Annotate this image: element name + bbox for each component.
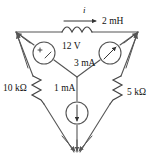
inductor-icon bbox=[62, 27, 92, 32]
circuit-diagram: i 2 mH 12 V 3 mA 10 kΩ 5 kΩ 1 mA bbox=[0, 0, 154, 161]
inductor-value-label: 2 mH bbox=[102, 17, 123, 27]
resistor-right-value-label: 5 kΩ bbox=[127, 88, 146, 98]
resistor-left-icon bbox=[32, 76, 44, 104]
current-source-right-icon bbox=[99, 42, 121, 64]
resistor-right-icon bbox=[110, 76, 122, 104]
current-source-right-value-label: 3 mA bbox=[74, 59, 95, 69]
current-source-bottom-icon bbox=[66, 102, 88, 124]
current-source-bottom-value-label: 1 mA bbox=[54, 84, 75, 94]
voltage-source-icon bbox=[33, 42, 55, 64]
circuit-schematic-svg bbox=[0, 0, 154, 161]
current-label-i: i bbox=[83, 6, 86, 15]
resistor-left-value-label: 10 kΩ bbox=[3, 84, 27, 94]
voltage-source-value-label: 12 V bbox=[62, 42, 81, 52]
